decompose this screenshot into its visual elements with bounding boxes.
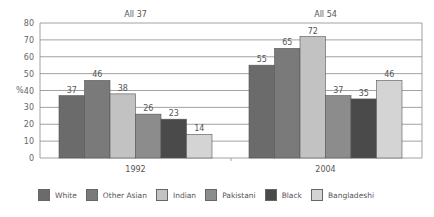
bar-value-label: 14 xyxy=(194,124,204,133)
bar-indian-1992 xyxy=(110,94,136,158)
bar-pakistani-1992 xyxy=(136,114,162,158)
bar-value-label: 65 xyxy=(282,38,292,47)
y-tick-label: 50 xyxy=(24,70,34,79)
legend-item-pakistani: Pakistani xyxy=(205,189,256,201)
bar-other-asian-1992 xyxy=(85,80,111,158)
bar-value-label: 35 xyxy=(359,89,369,98)
bar-value-label: 46 xyxy=(384,70,394,79)
bar-value-label: 26 xyxy=(143,104,153,113)
legend-swatch xyxy=(156,189,168,201)
bar-value-label: 23 xyxy=(169,109,179,118)
legend: WhiteOther AsianIndianPakistaniBlackBang… xyxy=(38,189,383,201)
bar-value-label: 46 xyxy=(92,70,102,79)
bar-bangladeshi-1992 xyxy=(187,134,213,158)
bar-white-1992 xyxy=(59,96,85,158)
bar-value-label: 72 xyxy=(308,27,318,36)
bar-black-2004 xyxy=(351,99,377,158)
group-annotations: All 37All 54 xyxy=(124,10,337,19)
legend-item-other-asian: Other Asian xyxy=(86,189,147,201)
group-total-annotation: All 54 xyxy=(314,10,337,19)
x-axis-labels: 19922004 xyxy=(125,165,335,174)
bar-value-label: 38 xyxy=(118,84,128,93)
legend-label: Pakistani xyxy=(222,191,256,200)
bar-value-label: 37 xyxy=(333,86,343,95)
bar-black-1992 xyxy=(161,119,187,158)
bar-pakistani-2004 xyxy=(326,96,352,158)
bar-value-label: 37 xyxy=(67,86,77,95)
legend-swatch xyxy=(38,189,50,201)
legend-label: Bangladeshi xyxy=(328,191,374,200)
bar-bangladeshi-2004 xyxy=(377,80,403,158)
group-total-annotation: All 37 xyxy=(124,10,147,19)
y-tick-label: 0 xyxy=(29,154,34,163)
legend-label: Black xyxy=(282,191,302,200)
legend-swatch xyxy=(205,189,217,201)
legend-label: Other Asian xyxy=(103,191,147,200)
legend-swatch xyxy=(311,189,323,201)
y-tick-label: 70 xyxy=(24,36,34,45)
y-tick-label: 10 xyxy=(24,137,34,146)
x-category-label: 1992 xyxy=(125,165,145,174)
legend-label: Indian xyxy=(173,191,196,200)
y-tick-label: 60 xyxy=(24,53,34,62)
legend-label: White xyxy=(55,191,77,200)
legend-item-black: Black xyxy=(265,189,302,201)
bar-value-label: 55 xyxy=(257,55,267,64)
y-tick-label: 30 xyxy=(24,103,34,112)
legend-item-indian: Indian xyxy=(156,189,196,201)
bar-indian-2004 xyxy=(300,37,326,159)
legend-item-bangladeshi: Bangladeshi xyxy=(311,189,374,201)
legend-swatch xyxy=(265,189,277,201)
bars: 374638262314556572373546 xyxy=(59,27,402,159)
bar-chart: 01020304050607080 % 37463826231455657237… xyxy=(0,0,434,217)
legend-item-white: White xyxy=(38,189,77,201)
x-category-label: 2004 xyxy=(315,165,335,174)
y-tick-label: 20 xyxy=(24,120,34,129)
y-tick-label: 40 xyxy=(24,87,34,96)
legend-swatch xyxy=(86,189,98,201)
bar-other-asian-2004 xyxy=(275,48,301,158)
y-axis-label: % xyxy=(16,86,24,95)
y-axis-ticks: 01020304050607080 xyxy=(24,19,34,163)
bar-white-2004 xyxy=(249,65,275,158)
y-tick-label: 80 xyxy=(24,19,34,28)
